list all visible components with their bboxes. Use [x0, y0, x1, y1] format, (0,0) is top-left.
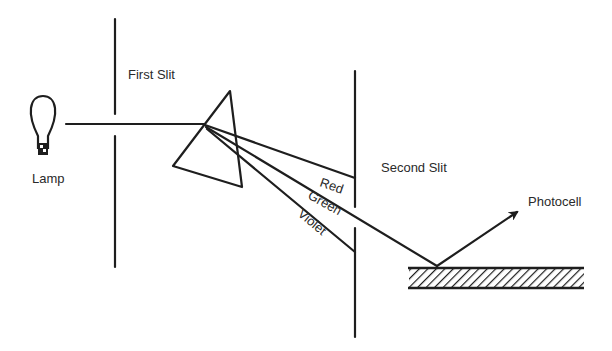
- photocell-label: Photocell: [528, 194, 582, 209]
- lamp-label: Lamp: [32, 171, 65, 186]
- reflecting-surface: [408, 268, 584, 288]
- first-slit-label: First Slit: [128, 67, 175, 82]
- second-slit-label: Second Slit: [381, 160, 447, 175]
- reflected-arrow-icon: [437, 212, 517, 266]
- lamp-icon: [31, 96, 55, 155]
- red-ray: [205, 125, 355, 178]
- prism-icon: [173, 91, 242, 187]
- spectrometer-diagram: Lamp First Slit Red Green Violet Second …: [0, 0, 612, 351]
